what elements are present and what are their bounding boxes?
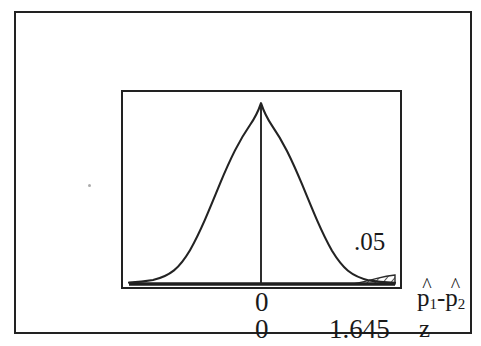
hat-accent-2: ^ [451,275,460,295]
axis-label-z: z [419,316,430,341]
tick-label-phat-zero: 0 [255,289,269,316]
normal-curve-plot [121,90,402,289]
tail-area-label: .05 [354,229,385,254]
axis-label-phat-difference: ^p1-^p2 [417,285,465,312]
figure-outer-border: .05 0 0 1.645 ^p1-^p2 z [14,11,472,334]
figure-root: .05 0 0 1.645 ^p1-^p2 z [0,0,481,346]
plot-frame [121,90,402,289]
minus-sign: - [437,284,445,311]
phat-1-symbol: ^p1 [417,285,437,312]
scan-speck-artifact [88,184,91,187]
subscript-2: 2 [458,296,466,312]
tick-label-z-critical: 1.645 [329,316,390,343]
phat-2-symbol: ^p2 [445,285,465,312]
tick-label-z-zero: 0 [255,316,269,343]
hat-accent-1: ^ [422,275,431,295]
subscript-1: 1 [430,296,438,312]
